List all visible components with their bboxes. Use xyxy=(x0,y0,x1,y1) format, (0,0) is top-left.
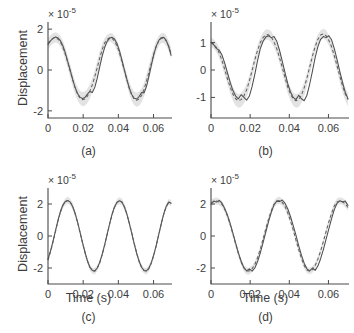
figure-container: Displacement × 10-5 00.020.040.06-202 (a… xyxy=(0,0,354,333)
y-tick-label: -1 xyxy=(196,91,206,103)
panel-caption-d: (d) xyxy=(177,310,354,324)
y-tick-label: 2 xyxy=(200,198,206,210)
y-tick-label: -2 xyxy=(33,105,43,117)
y-axis-label-a: Displacement xyxy=(16,20,30,116)
x-tick-label: 0.02 xyxy=(72,122,93,134)
confidence-band xyxy=(48,197,171,275)
y-exponent-label-a: × 10-5 xyxy=(48,6,76,20)
series-measured xyxy=(211,200,348,271)
subplot-d: × 10-5 00.020.040.06-202 Time (s) (d) xyxy=(177,166,354,333)
series-measured xyxy=(48,37,171,99)
y-axis-label-c: Displacement xyxy=(16,186,30,282)
x-tick-label: 0 xyxy=(208,122,214,134)
panel-caption-c: (c) xyxy=(0,310,177,324)
y-tick-label: 2 xyxy=(37,198,43,210)
plot-area-d: 00.020.040.06-202 xyxy=(177,166,354,333)
y-tick-label: 2 xyxy=(37,23,43,35)
series-model xyxy=(48,38,171,101)
plot-area-b: 00.020.040.06-101 xyxy=(177,0,354,167)
y-exponent-label-c: × 10-5 xyxy=(48,172,76,186)
y-exponent-label-b: × 10-5 xyxy=(211,6,239,20)
x-tick-label: 0.02 xyxy=(239,122,260,134)
y-tick-label: 0 xyxy=(200,64,206,76)
x-tick-label: 0.04 xyxy=(108,122,129,134)
y-tick-label: 0 xyxy=(37,64,43,76)
y-exponent-label-d: × 10-5 xyxy=(211,172,239,186)
x-tick-label: 0.04 xyxy=(279,122,300,134)
y-tick-label: -2 xyxy=(196,262,206,274)
subplot-a: Displacement × 10-5 00.020.040.06-202 (a… xyxy=(0,0,177,167)
y-tick-label: -2 xyxy=(33,262,43,274)
subplot-c: Displacement × 10-5 00.020.040.06-202 Ti… xyxy=(0,166,177,333)
y-tick-label: 0 xyxy=(200,230,206,242)
confidence-band xyxy=(211,29,348,108)
confidence-band xyxy=(48,32,171,107)
x-axis-label-d: Time (s) xyxy=(177,291,354,305)
panel-caption-a: (a) xyxy=(0,144,177,158)
y-tick-label: 0 xyxy=(37,230,43,242)
x-tick-label: 0.06 xyxy=(318,122,339,134)
subplot-b: × 10-5 00.020.040.06-101 (b) xyxy=(177,0,354,167)
x-axis-label-c: Time (s) xyxy=(0,291,177,305)
panel-caption-b: (b) xyxy=(177,144,354,158)
x-tick-label: 0.06 xyxy=(143,122,164,134)
x-tick-label: 0 xyxy=(45,122,51,134)
y-tick-label: 1 xyxy=(200,37,206,49)
